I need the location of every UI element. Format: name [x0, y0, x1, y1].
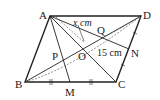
- label-d: D: [143, 9, 151, 21]
- label-15-cm: 15 cm: [97, 47, 122, 58]
- label-a: A: [39, 9, 47, 21]
- label-p: P: [52, 50, 58, 62]
- label-b: B: [15, 78, 22, 90]
- label-n: N: [131, 47, 139, 59]
- label-c: C: [118, 78, 125, 90]
- label-q: Q: [97, 24, 105, 36]
- label-m: M: [65, 86, 75, 98]
- label-x-cm: x cm: [72, 17, 92, 28]
- parallelogram-diagram: A D B C M N O P Q x cm 15 cm: [0, 0, 160, 100]
- label-o: O: [78, 50, 86, 62]
